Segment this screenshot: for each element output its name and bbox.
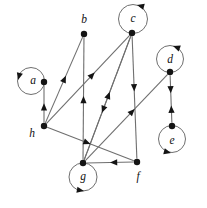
arrowhead-c-f — [131, 84, 137, 91]
edge-c-f — [132, 36, 137, 158]
arrowhead-g-c — [104, 91, 112, 100]
arrowhead-g-b — [80, 96, 86, 103]
node-b[interactable] — [81, 31, 87, 37]
node-g[interactable] — [80, 160, 86, 166]
node-e[interactable] — [169, 123, 175, 129]
arrowhead-self-loop-a — [15, 72, 23, 81]
arrowhead-self-loop-d — [172, 43, 181, 51]
node-a[interactable] — [41, 79, 47, 85]
arrowhead-d-e — [167, 86, 173, 93]
node-label-d: d — [167, 53, 173, 65]
node-label-layer: abcdefgh — [29, 12, 174, 183]
node-label-a: a — [30, 74, 36, 86]
arrowhead-h-a — [41, 103, 47, 110]
node-h[interactable] — [41, 123, 47, 129]
directed-graph-figure: abcdefgh — [0, 0, 207, 208]
node-label-f: f — [136, 170, 141, 183]
arrowhead-h-b — [60, 74, 69, 83]
edge-g-d — [85, 74, 167, 160]
node-label-h: h — [29, 127, 35, 139]
node-f[interactable] — [134, 159, 140, 165]
arrowhead-self-loop-g — [76, 187, 84, 194]
node-c[interactable] — [129, 30, 135, 36]
node-d[interactable] — [167, 69, 173, 75]
graph-canvas: abcdefgh — [0, 0, 207, 208]
arrowhead-c-g — [99, 105, 107, 114]
node-label-e: e — [169, 134, 174, 146]
arrowhead-d-e-reverse — [168, 105, 174, 112]
edge-h-c — [46, 35, 129, 123]
node-label-c: c — [130, 12, 135, 24]
arrowhead-layer — [15, 2, 181, 194]
edge-d-e — [170, 75, 172, 122]
edge-layer — [44, 35, 172, 162]
arrowhead-f-g — [110, 159, 117, 165]
node-label-g: g — [80, 170, 86, 183]
node-label-b: b — [81, 13, 87, 25]
